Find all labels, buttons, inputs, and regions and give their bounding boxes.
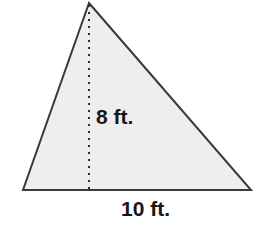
- base-measurement-label: 10 ft.: [121, 197, 170, 221]
- triangle-diagram: [0, 0, 273, 228]
- height-measurement-label: 8 ft.: [96, 105, 133, 129]
- geometry-figure: 8 ft. 10 ft.: [0, 0, 273, 228]
- triangle-shape: [23, 3, 251, 190]
